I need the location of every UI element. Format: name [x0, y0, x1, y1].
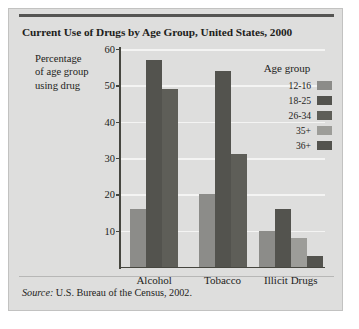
legend-entry: 18-25	[246, 93, 332, 108]
legend-entry-label: 18-25	[289, 95, 311, 106]
legend-entry-label: 12-16	[289, 80, 311, 91]
bar	[146, 60, 162, 267]
legend-entry: 36+	[246, 138, 332, 153]
gridline	[120, 49, 325, 51]
legend-entry-label: 35+	[296, 125, 311, 136]
y-tick-label: 30	[105, 153, 116, 164]
legend-entry-label: 36+	[296, 140, 311, 151]
bar	[291, 238, 307, 267]
bar	[231, 154, 247, 267]
legend-entry: 35+	[246, 123, 332, 138]
legend-color-swatch	[317, 111, 332, 120]
bar	[199, 194, 215, 267]
y-axis-line	[119, 47, 121, 269]
legend-color-swatch	[317, 141, 332, 150]
footer-divider-rule	[19, 276, 334, 277]
y-tick-label: 10	[105, 225, 116, 236]
bar	[215, 71, 231, 267]
chart-figure-panel: Current Use of Drugs by Age Group, Unite…	[8, 8, 343, 311]
top-divider-rule	[19, 14, 334, 17]
y-axis-title-line-2: of age group	[35, 65, 119, 78]
bar	[130, 209, 146, 267]
source-note: Source: U.S. Bureau of the Census, 2002.	[22, 287, 192, 298]
y-tick-label: 60	[105, 44, 116, 55]
legend-entries: 12-1618-2526-3435+36+	[246, 78, 332, 153]
legend-entry: 12-16	[246, 78, 332, 93]
bar	[307, 256, 323, 267]
y-tick-label: 50	[105, 80, 116, 91]
legend-entry: 26-34	[246, 108, 332, 123]
y-tick-label: 20	[105, 189, 116, 200]
legend-color-swatch	[317, 126, 332, 135]
y-tick-label: 40	[105, 116, 116, 127]
legend-entry-label: 26-34	[289, 110, 311, 121]
legend-color-swatch	[317, 96, 332, 105]
legend-color-swatch	[317, 81, 332, 90]
bar	[259, 231, 275, 267]
chart-title: Current Use of Drugs by Age Group, Unite…	[22, 26, 334, 38]
source-label: Source:	[22, 287, 53, 298]
bar	[275, 209, 291, 267]
legend: Age group 12-1618-2526-3435+36+	[246, 62, 332, 153]
bar	[162, 89, 178, 267]
source-text: U.S. Bureau of the Census, 2002.	[53, 287, 192, 298]
legend-title: Age group	[246, 62, 332, 74]
